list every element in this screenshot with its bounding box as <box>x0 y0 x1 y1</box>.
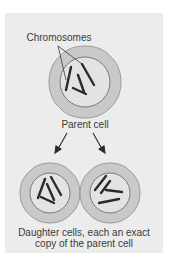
daughter-cell-right <box>80 163 140 223</box>
parent-cell <box>49 46 121 118</box>
daughter-cell-left <box>20 163 80 223</box>
daughter-cells-label-line2: copy of the parent cell <box>5 238 163 249</box>
daughter-cells-label-line1: Daughter cells, each an exact <box>5 227 163 238</box>
division-arrows <box>55 133 105 153</box>
parent-cell-label: Parent cell <box>45 119 125 130</box>
daughter-right-nucleus <box>90 173 130 213</box>
chromosomes-label: Chromosomes <box>24 32 94 43</box>
